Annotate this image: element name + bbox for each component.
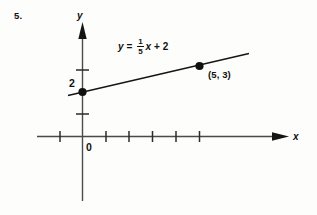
y-intercept-label: 2 [69, 78, 75, 89]
equation-label: y = 1 5 x + 2 [118, 38, 168, 57]
y-axis-arrowhead [78, 22, 86, 39]
problem-number: 5. [14, 11, 22, 21]
fraction-numerator: 1 [137, 38, 143, 46]
equation-plus-sign: + [154, 42, 160, 52]
y-axis-label: y [77, 11, 83, 21]
fraction-denominator: 5 [137, 48, 143, 56]
x-axis-arrowhead [272, 132, 289, 140]
equation-equals-sign: = [127, 42, 133, 52]
figure-page: 5. y x 0 2 (5, 3) y = 1 5 x + 2 [0, 0, 317, 215]
equation-fraction: 1 5 [137, 38, 144, 57]
equation-lhs: y [118, 42, 124, 52]
point-coordinate-label: (5, 3) [208, 70, 231, 80]
graph-canvas [0, 0, 317, 215]
equation-variable: x [145, 42, 151, 52]
point-5-3 [195, 62, 203, 70]
point-y-intercept [78, 88, 86, 96]
x-axis-label: x [293, 132, 299, 142]
origin-label: 0 [86, 142, 92, 153]
equation-constant: 2 [163, 42, 169, 52]
